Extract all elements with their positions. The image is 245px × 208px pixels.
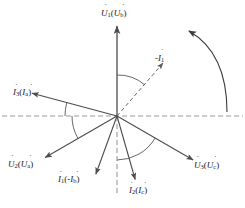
phasor-label-u2-paren-dot-icon: ˙ — [29, 155, 32, 163]
phasor-vector-canvas — [0, 0, 245, 208]
phasor-label-u1-dot-icon: ˙ — [105, 4, 108, 12]
phasor-vector-u3 — [117, 116, 193, 160]
phasor-label-i2-paren-dot-icon: ˙ — [144, 182, 147, 190]
phasor-label-negi1-sub: 1 — [161, 56, 164, 63]
phasor-label-u3-dot-icon: ˙ — [197, 156, 200, 164]
angle-arc-xneg-u2 — [72, 116, 78, 139]
phasor-vector-i1 — [96, 116, 117, 174]
phasor-label-i2-dot-icon: ˙ — [131, 182, 134, 190]
phasor-diagram-figure: U1(Ub) ˙ ˙ -I1 ˙ I3(Ia) ˙ ˙ U2(Ua) ˙ ˙ I… — [0, 0, 245, 208]
phasor-label-i1-paren-dot-icon: ˙ — [76, 171, 79, 179]
angle-arc-xneg-i3 — [65, 103, 67, 117]
phasor-vector-negative-i1 — [117, 63, 163, 116]
phasor-label-u2-dot-icon: ˙ — [11, 155, 14, 163]
angle-arc-yneg-u3 — [117, 138, 155, 160]
phasor-label-u3-paren-dot-icon: ˙ — [214, 156, 217, 164]
phasor-label-u1-paren-dot-icon: ˙ — [122, 4, 125, 12]
phasor-label-i3-dot-icon: ˙ — [15, 84, 18, 92]
phasor-vector-u2 — [45, 116, 117, 158]
phasor-label-i3-paren-dot-icon: ˙ — [30, 84, 33, 92]
phasor-label-i1-dot-icon: ˙ — [60, 171, 63, 179]
angle-arc-u1-negi1 — [117, 75, 145, 85]
rotation-direction-arrow — [189, 31, 227, 112]
phasor-label-negi1-dot-icon: ˙ — [161, 49, 164, 57]
phasor-vector-i3 — [32, 93, 117, 116]
